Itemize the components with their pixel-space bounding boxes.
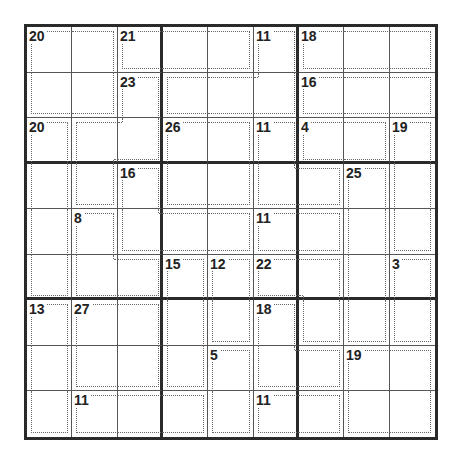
grid-cell-r4c7[interactable] <box>299 164 344 209</box>
cage-sum-label: 11 <box>74 393 91 407</box>
grid-cell-r1c2[interactable] <box>72 27 118 73</box>
grid-cell-r8c4[interactable] <box>163 346 208 391</box>
grid-cell-r3c8[interactable] <box>344 118 390 164</box>
cage-sum-label: 20 <box>29 120 47 134</box>
cage-sum-label: 8 <box>74 211 84 225</box>
cage-sum-label: 12 <box>210 257 228 271</box>
cage-sum-label: 26 <box>165 120 183 134</box>
grid-cell-r1c9[interactable] <box>390 27 435 73</box>
grid-cell-r5c4[interactable] <box>163 209 208 255</box>
grid-cell-r3c2[interactable] <box>72 118 118 164</box>
grid-cell-r9c7[interactable] <box>299 391 344 437</box>
grid-cell-r6c7[interactable] <box>299 255 344 300</box>
cage-sum-label: 16 <box>301 75 319 89</box>
grid-cell-r9c8[interactable] <box>344 391 390 437</box>
grid-cell-r9c4[interactable] <box>163 391 208 437</box>
grid-cell-r5c3[interactable] <box>118 209 163 255</box>
cage-sum-label: 27 <box>74 302 92 316</box>
cage-sum-label: 5 <box>210 348 220 362</box>
grid-cell-r9c3[interactable] <box>118 391 163 437</box>
grid-cell-r9c1[interactable] <box>27 391 72 437</box>
killer-sudoku-board: 2021111823162026114191625811151222313271… <box>24 24 438 440</box>
grid-cell-r5c5[interactable] <box>208 209 254 255</box>
grid-cell-r4c6[interactable] <box>254 164 299 209</box>
grid-cell-r5c8[interactable] <box>344 209 390 255</box>
cage-sum-label: 15 <box>165 257 183 271</box>
cage-sum-label: 16 <box>120 166 138 180</box>
grid-cell-r6c3[interactable] <box>118 255 163 300</box>
grid-cell-r2c1[interactable] <box>27 73 72 118</box>
cage-sum-label: 19 <box>346 348 364 362</box>
cage-sum-label: 3 <box>392 257 402 271</box>
grid-cell-r8c7[interactable] <box>299 346 344 391</box>
grid-cell-r7c7[interactable] <box>299 300 344 346</box>
grid-cell-r5c9[interactable] <box>390 209 435 255</box>
grid-cell-r4c4[interactable] <box>163 164 208 209</box>
cage-sum-label: 11 <box>256 393 273 407</box>
grid-cell-r4c1[interactable] <box>27 164 72 209</box>
grid-cell-r4c2[interactable] <box>72 164 118 209</box>
cage-sum-label: 11 <box>256 211 273 225</box>
grid-cell-r6c1[interactable] <box>27 255 72 300</box>
grid-cell-r1c8[interactable] <box>344 27 390 73</box>
grid-cell-r6c8[interactable] <box>344 255 390 300</box>
grid-cell-r8c6[interactable] <box>254 346 299 391</box>
cage-sum-label: 21 <box>120 29 138 43</box>
grid-cell-r7c4[interactable] <box>163 300 208 346</box>
grid-cell-r4c9[interactable] <box>390 164 435 209</box>
grid-cell-r7c5[interactable] <box>208 300 254 346</box>
grid-cell-r3c3[interactable] <box>118 118 163 164</box>
grid-cell-r7c8[interactable] <box>344 300 390 346</box>
cage-sum-label: 11 <box>256 29 273 43</box>
cage-sum-label: 4 <box>301 120 311 134</box>
grid-cell-r2c4[interactable] <box>163 73 208 118</box>
grid-cell-r5c1[interactable] <box>27 209 72 255</box>
grid-cell-r1c5[interactable] <box>208 27 254 73</box>
cage-sum-label: 23 <box>120 75 138 89</box>
grid-cell-r4c5[interactable] <box>208 164 254 209</box>
grid-cell-r2c2[interactable] <box>72 73 118 118</box>
cage-sum-label: 11 <box>256 120 273 134</box>
cage-sum-label: 22 <box>256 257 274 271</box>
grid-cell-r7c9[interactable] <box>390 300 435 346</box>
grid-cell-r3c5[interactable] <box>208 118 254 164</box>
grid-cell-r2c6[interactable] <box>254 73 299 118</box>
grid-cell-r2c8[interactable] <box>344 73 390 118</box>
cage-sum-label: 18 <box>256 302 274 316</box>
cage-sum-label: 13 <box>29 302 47 316</box>
grid-cell-r2c5[interactable] <box>208 73 254 118</box>
grid-cell-r9c5[interactable] <box>208 391 254 437</box>
grid-cell-r8c3[interactable] <box>118 346 163 391</box>
grid-cell-r7c3[interactable] <box>118 300 163 346</box>
cage-sum-label: 19 <box>392 120 410 134</box>
cage-sum-label: 18 <box>301 29 319 43</box>
grid-cell-r2c9[interactable] <box>390 73 435 118</box>
cage-sum-label: 25 <box>346 166 364 180</box>
grid-cell-r8c1[interactable] <box>27 346 72 391</box>
grid-cell-r5c7[interactable] <box>299 209 344 255</box>
grid-cell-r8c2[interactable] <box>72 346 118 391</box>
grid-cell-r9c9[interactable] <box>390 391 435 437</box>
grid-cell-r8c9[interactable] <box>390 346 435 391</box>
cage-sum-label: 20 <box>29 29 47 43</box>
grid-cell-r1c4[interactable] <box>163 27 208 73</box>
grid-cell-r6c2[interactable] <box>72 255 118 300</box>
